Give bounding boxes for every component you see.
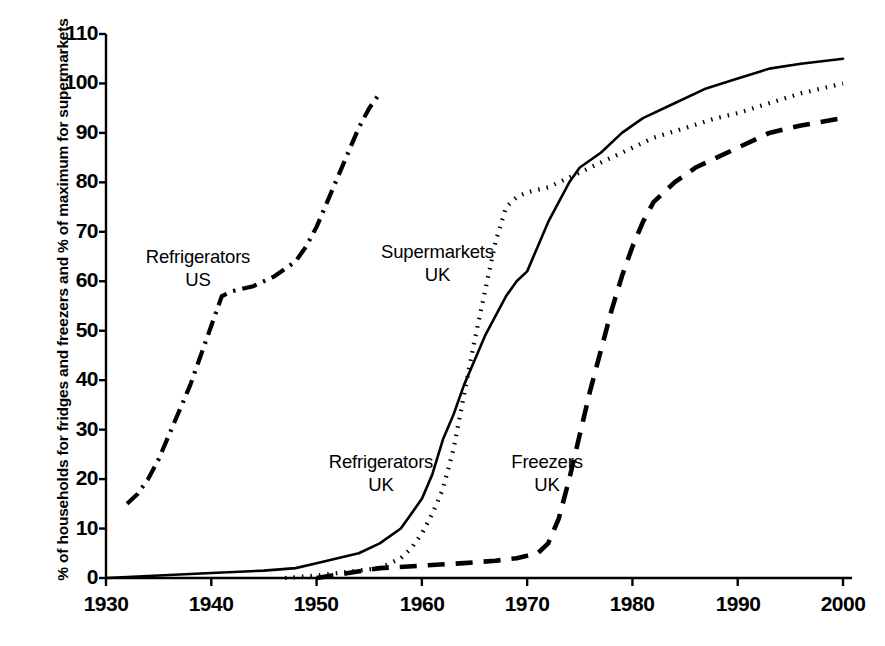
plot-area <box>0 0 885 646</box>
series-lines <box>106 59 843 578</box>
annotation-refrigerators-uk: Refrigerators UK <box>291 450 471 496</box>
annotation-supermarkets-uk: Supermarkets UK <box>350 240 525 286</box>
series-line-refrigerators-us <box>127 93 380 503</box>
axes-group <box>99 34 852 586</box>
series-line-supermarkets-uk <box>285 83 843 578</box>
chart-container: % of households for fridges and freezers… <box>0 0 885 646</box>
annotation-refrigerators-us: Refrigerators US <box>108 245 288 291</box>
series-line-refrigerators-uk <box>106 59 843 578</box>
series-line-freezers-uk <box>317 118 843 578</box>
annotation-freezers-uk: Freezers UK <box>477 450 617 496</box>
